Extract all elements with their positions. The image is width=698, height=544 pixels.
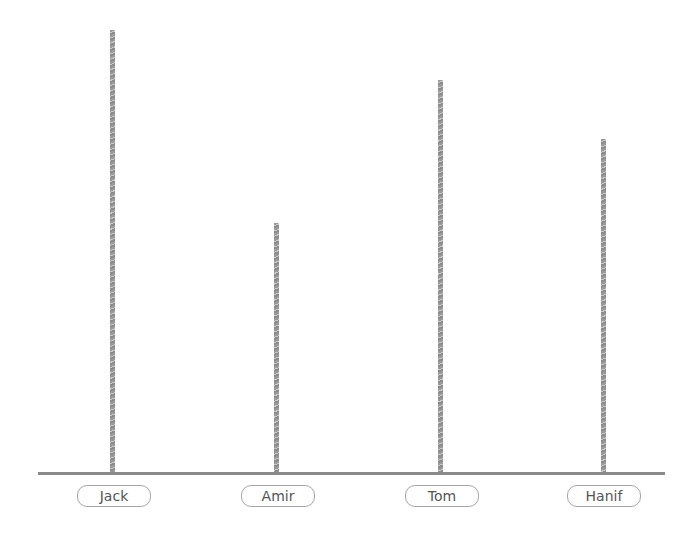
x-axis-baseline <box>38 472 665 475</box>
bar-hanif <box>601 139 606 473</box>
category-label-amir: Amir <box>241 485 315 507</box>
category-label-tom: Tom <box>405 485 479 507</box>
bar-jack <box>110 30 115 473</box>
category-label-jack: Jack <box>77 485 151 507</box>
bar-tom <box>438 80 443 473</box>
stick-chart: Jack Amir Tom Hanif <box>0 0 698 544</box>
bar-amir <box>274 223 279 473</box>
category-label-hanif: Hanif <box>567 485 641 507</box>
